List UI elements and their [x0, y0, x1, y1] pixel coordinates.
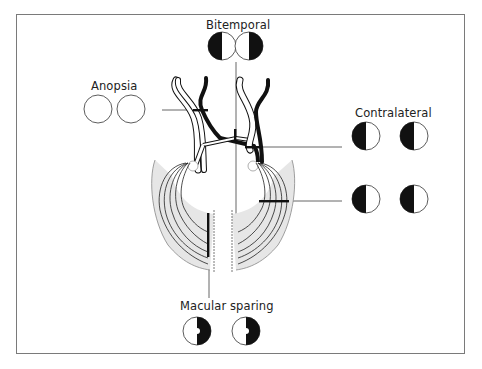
lgn-right: [248, 161, 258, 171]
field-bitemporal-left: [208, 32, 236, 60]
optic-pathway: [175, 78, 268, 171]
label-anopsia: Anopsia: [91, 79, 137, 93]
field-anopsia-right: [117, 95, 145, 123]
field-macular-right: [232, 317, 260, 345]
field-contralateral-right: [400, 122, 428, 150]
field-radiation-right: [400, 185, 428, 213]
field-contralateral-left: [352, 122, 380, 150]
tract-lesion: [245, 146, 262, 148]
field-bitemporal-right: [235, 32, 263, 60]
label-macular-sparing: Macular sparing: [180, 299, 274, 313]
field-anopsia-left: [84, 95, 112, 123]
label-bitemporal: Bitemporal: [206, 18, 270, 32]
macular-lesion: [207, 213, 209, 257]
visual-pathway-diagram: [0, 0, 482, 369]
lgn-left: [188, 161, 198, 171]
optic-radiations: [152, 160, 295, 272]
chiasm-lesion: [234, 129, 236, 141]
radiation-lesion: [259, 200, 289, 202]
anopsia-lesion: [193, 109, 208, 111]
field-macular-left: [183, 317, 211, 345]
label-contralateral: Contralateral: [355, 106, 432, 120]
field-radiation-left: [352, 185, 380, 213]
